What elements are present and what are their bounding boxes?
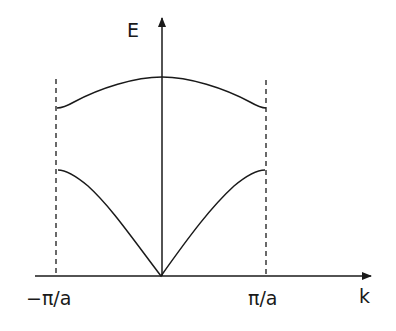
dispersion-diagram: E k −π/a π/a [0,0,396,331]
tick-label-left: −π/a [26,287,71,309]
k-axis-label: k [359,285,370,307]
e-axis-label: E [127,19,139,41]
tick-label-right: π/a [248,287,277,309]
